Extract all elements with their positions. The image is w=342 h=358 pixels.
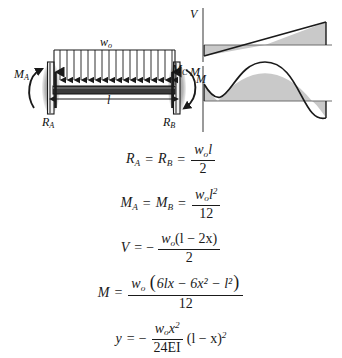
beam-formula-sheet: wo MA MC M RA RB l V M RA = RB = wol 2 M… [0, 0, 342, 358]
label-reaction-b: RB [163, 116, 175, 130]
label-moment-axis: M [190, 66, 200, 78]
equation-moment: M = wo (6lx − 6x² − l²) 12 [97, 275, 245, 311]
fraction: wo(l − 2x) 2 [158, 232, 220, 266]
label-span-length: l [107, 94, 110, 106]
equation-reactions: RA = RB = wol 2 [125, 143, 217, 177]
equation-deflection: y = − wox2 24EI (l − x)2 [115, 321, 228, 356]
label-reaction-a: RA [42, 116, 54, 130]
label-distributed-load: wo [100, 36, 112, 50]
distributed-load [54, 50, 175, 85]
shear-diagram [203, 8, 332, 62]
fraction: wol2 12 [192, 187, 220, 222]
fraction: wox2 24EI [151, 321, 184, 356]
moment-diagram [203, 62, 332, 132]
fraction: wo (6lx − 6x² − l²) 12 [128, 275, 243, 311]
equation-end-moments: MA = MB = wol2 12 [120, 187, 223, 222]
equation-shear: V = − wo(l − 2x) 2 [120, 232, 222, 266]
beam-member [53, 86, 175, 94]
beam-figure: wo MA MC M RA RB l V M [0, 0, 342, 140]
equation-list: RA = RB = wol 2 MA = MB = wol2 12 V = − [0, 138, 342, 358]
moment-arrow-left [29, 70, 40, 108]
label-moment-c: MC [172, 63, 187, 77]
label-shear-axis: V [190, 8, 197, 20]
fraction: wol 2 [191, 143, 215, 177]
label-moment-a: MA [14, 68, 29, 82]
